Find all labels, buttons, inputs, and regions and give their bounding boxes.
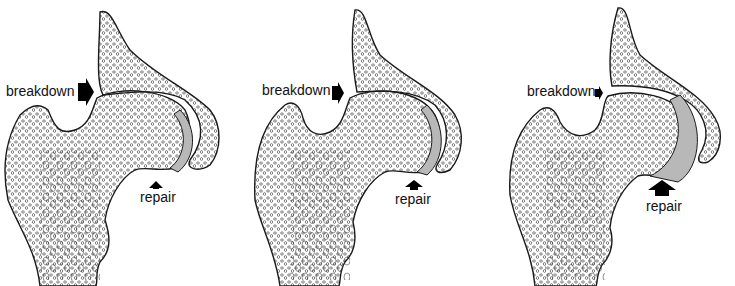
femur-illustration-2 — [245, 0, 490, 286]
hip-panel-1: breakdown repair — [0, 0, 245, 286]
hip-panel-2: breakdown repair — [245, 0, 490, 286]
breakdown-arrow-icon — [595, 86, 603, 100]
repair-label: repair — [395, 192, 431, 206]
breakdown-label: breakdown — [527, 84, 596, 98]
repair-arrow-icon — [648, 180, 676, 196]
repair-label: repair — [140, 190, 176, 204]
breakdown-arrow-icon — [78, 78, 98, 108]
breakdown-arrow-icon — [332, 82, 344, 104]
repair-label: repair — [646, 199, 682, 213]
hip-panel-3: breakdown repair — [490, 0, 735, 286]
breakdown-label: breakdown — [262, 83, 331, 97]
repair-arrow-icon — [149, 181, 163, 189]
femur-illustration-3 — [490, 0, 735, 286]
breakdown-label: breakdown — [6, 84, 75, 98]
repair-arrow-icon — [405, 180, 423, 190]
femur-illustration-1 — [0, 0, 245, 286]
